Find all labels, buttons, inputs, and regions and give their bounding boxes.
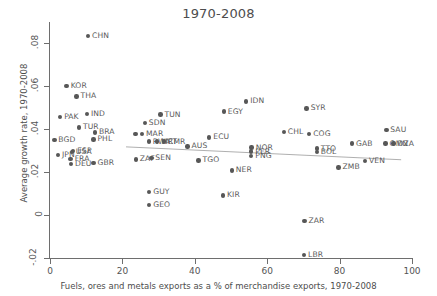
x-tick-mark xyxy=(195,259,196,264)
x-tick-label: 20 xyxy=(107,266,137,276)
data-point[interactable] xyxy=(336,165,340,169)
data-point[interactable] xyxy=(158,112,162,116)
data-point-label: MRT xyxy=(161,137,177,146)
plot-area: CHNKORTHAIDNSYREGYPAKINDTUNSDNSAUTURCHLC… xyxy=(50,22,412,258)
x-tick-label: 80 xyxy=(325,266,355,276)
scatter-chart: 1970-2008 -.020.02.04.06.08 020406080100… xyxy=(0,0,437,296)
data-point-label: DEU xyxy=(75,159,92,168)
data-point-label: GBR xyxy=(97,158,114,167)
data-point-label: LBR xyxy=(308,250,323,259)
data-point[interactable] xyxy=(282,130,286,134)
data-point-label: ECU xyxy=(213,132,229,141)
data-point[interactable] xyxy=(363,159,367,163)
data-point-label: EGY xyxy=(228,107,243,116)
data-point[interactable] xyxy=(304,106,308,110)
data-point[interactable] xyxy=(91,137,95,141)
data-point-label: IND xyxy=(91,109,105,118)
chart-title: 1970-2008 xyxy=(0,6,437,21)
data-point[interactable] xyxy=(77,125,81,129)
data-point-label: GAB xyxy=(356,139,373,148)
data-point[interactable] xyxy=(133,132,137,136)
data-point-label: GUY xyxy=(153,187,169,196)
data-point-label: NER xyxy=(236,165,252,174)
data-point-label: SDN xyxy=(149,118,166,127)
y-tick-mark xyxy=(44,86,49,87)
data-point-label: PNG xyxy=(255,151,271,160)
data-point[interactable] xyxy=(222,109,226,113)
data-point[interactable] xyxy=(68,157,72,161)
y-tick-mark xyxy=(44,215,49,216)
data-point-label: KOR xyxy=(71,81,87,90)
x-axis-line xyxy=(49,258,413,259)
data-point-label: SYR xyxy=(311,103,326,112)
y-axis-title: Average growth rate, 1970-2008 xyxy=(19,23,29,243)
y-tick-mark xyxy=(44,258,49,259)
x-axis-title: Fuels, ores and metals exports as a % of… xyxy=(0,281,437,291)
data-point[interactable] xyxy=(302,219,306,223)
data-point-label: THA xyxy=(80,91,96,100)
x-tick-mark xyxy=(412,259,413,264)
data-point-label: VEN xyxy=(369,156,385,165)
data-point[interactable] xyxy=(52,138,56,142)
data-point[interactable] xyxy=(244,99,248,103)
data-point-label: TUN xyxy=(164,110,180,119)
x-tick-label: 60 xyxy=(252,266,282,276)
x-tick-label: 40 xyxy=(180,266,210,276)
data-point-label: KIR xyxy=(227,190,240,199)
data-point-label: BOL xyxy=(321,147,337,156)
data-point[interactable] xyxy=(134,157,138,161)
data-point-label: PAK xyxy=(64,112,79,121)
data-point-label: BGD xyxy=(58,135,75,144)
y-tick-mark xyxy=(44,129,49,130)
data-point[interactable] xyxy=(383,141,387,145)
data-point-label: SAU xyxy=(390,125,406,134)
data-point[interactable] xyxy=(196,158,200,162)
data-point-label: PHL xyxy=(97,134,112,143)
data-point[interactable] xyxy=(230,168,234,172)
x-tick-label: 100 xyxy=(397,266,427,276)
data-point[interactable] xyxy=(74,94,78,98)
data-point[interactable] xyxy=(147,139,151,143)
data-point-label: SEN xyxy=(155,153,171,162)
x-tick-label: 0 xyxy=(35,266,65,276)
data-point-label: OMN xyxy=(390,139,409,148)
x-tick-mark xyxy=(122,259,123,264)
data-point-label: CHN xyxy=(92,31,109,40)
x-tick-mark xyxy=(50,259,51,264)
x-tick-mark xyxy=(340,259,341,264)
data-point[interactable] xyxy=(350,141,354,145)
data-point[interactable] xyxy=(91,161,95,165)
data-point-label: ZMB xyxy=(343,162,360,171)
data-point-label: GEO xyxy=(153,200,170,209)
data-point[interactable] xyxy=(221,193,225,197)
data-point[interactable] xyxy=(93,130,97,134)
data-point-label: AUS xyxy=(192,141,208,150)
data-point-label: ZAR xyxy=(308,216,324,225)
data-point-label: CHL xyxy=(288,127,304,136)
y-tick-mark xyxy=(44,172,49,173)
data-point-label: COG xyxy=(313,129,330,138)
data-point[interactable] xyxy=(155,139,159,143)
data-point-label: TGO xyxy=(202,155,219,164)
data-point-label: ZAF xyxy=(140,154,155,163)
data-point-label: IDN xyxy=(250,96,264,105)
data-point[interactable] xyxy=(315,150,319,154)
data-point[interactable] xyxy=(384,128,388,132)
y-tick-label: -.02 xyxy=(8,252,42,262)
y-tick-mark xyxy=(44,43,49,44)
data-point[interactable] xyxy=(185,144,189,148)
x-tick-mark xyxy=(267,259,268,264)
